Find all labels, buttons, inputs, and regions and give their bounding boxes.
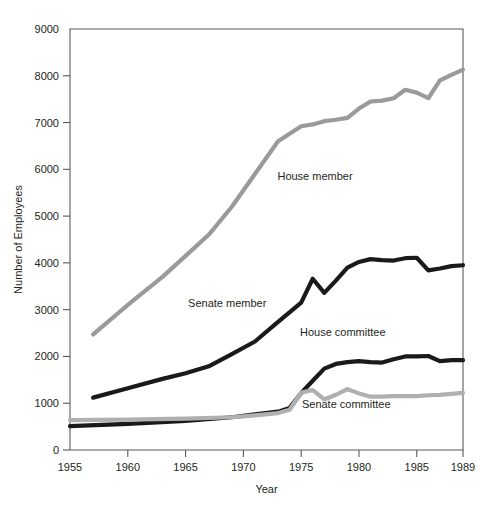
y-tick-label: 2000 <box>35 350 59 362</box>
x-tick-label: 1960 <box>116 461 140 473</box>
y-tick-label: 8000 <box>35 70 59 82</box>
y-tick-label: 9000 <box>35 23 59 35</box>
x-tick-label: 1980 <box>347 461 371 473</box>
y-tick-label: 0 <box>53 444 59 456</box>
y-tick-label: 6000 <box>35 163 59 175</box>
line-chart-svg: 0100020003000400050006000700080009000 19… <box>0 0 488 510</box>
x-tick-label: 1985 <box>405 461 429 473</box>
series-label-house-committee: House committee <box>300 326 386 338</box>
y-axis-title: Number of Employees <box>12 185 24 294</box>
x-tick-label: 1965 <box>173 461 197 473</box>
x-tick-label: 1970 <box>231 461 255 473</box>
y-tick-label: 7000 <box>35 117 59 129</box>
x-tick-label: 1955 <box>58 461 82 473</box>
series-label-senate-member: Senate member <box>188 297 267 309</box>
series-label-house-member: House member <box>277 170 353 182</box>
y-tick-label: 5000 <box>35 210 59 222</box>
chart-figure: 0100020003000400050006000700080009000 19… <box>0 0 488 510</box>
x-axis-title: Year <box>255 483 278 495</box>
x-tick-label: 1989 <box>451 461 475 473</box>
series-label-senate-committee: Senate committee <box>302 398 391 410</box>
y-tick-label: 4000 <box>35 257 59 269</box>
y-tick-label: 1000 <box>35 397 59 409</box>
x-tick-label: 1975 <box>289 461 313 473</box>
figure-background <box>0 0 488 510</box>
y-tick-label: 3000 <box>35 304 59 316</box>
